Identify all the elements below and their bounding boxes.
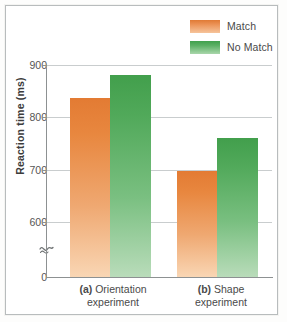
bar-shape-no-match[interactable]	[217, 138, 258, 277]
category-b-prefix: (b)	[198, 283, 211, 295]
no-match-swatch-icon	[190, 41, 220, 54]
y-axis-title: Reaction time (ms)	[14, 56, 26, 196]
bar-orientation-match[interactable]	[70, 98, 110, 277]
figure-container: Match No Match 900 800 700 600 0 Reactio…	[0, 0, 287, 322]
y-tick-label-800: 800	[7, 112, 47, 123]
plot-area	[47, 65, 272, 277]
y-tick-label-900: 900	[7, 60, 47, 71]
category-a-line2: experiment	[87, 296, 139, 308]
gridline-900	[47, 65, 272, 66]
category-b-line2: experiment	[195, 296, 247, 308]
legend-item-no-match[interactable]: No Match	[190, 38, 275, 56]
category-a-prefix: (a)	[79, 283, 92, 295]
y-tick-label-600: 600	[7, 217, 47, 228]
legend-label-match: Match	[227, 20, 256, 32]
category-a-name: Orientation	[92, 283, 146, 295]
legend-label-no-match: No Match	[227, 41, 273, 53]
x-category-label-orientation: (a) Orientation experiment	[58, 283, 168, 308]
bar-shape-match[interactable]	[177, 171, 217, 277]
category-b-name: Shape	[211, 283, 244, 295]
y-tick-label-700: 700	[7, 165, 47, 176]
x-axis-line	[46, 277, 273, 278]
match-swatch-icon	[190, 20, 220, 33]
legend-item-match[interactable]: Match	[190, 17, 275, 35]
x-category-label-shape: (b) Shape experiment	[166, 283, 276, 308]
chart-legend: Match No Match	[190, 17, 275, 59]
y-tick-label-0: 0	[7, 272, 47, 283]
bar-orientation-no-match[interactable]	[110, 75, 151, 277]
